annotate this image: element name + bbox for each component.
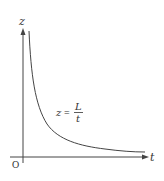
z-axis-label: z [18,15,25,28]
origin-label: O [12,159,19,170]
t-axis-arrow-icon [142,155,149,160]
t-axis-label: t [150,151,155,164]
z-axis-arrow-icon [21,28,26,35]
formula-lhs: z [55,107,62,118]
formula: z = L t [55,101,83,124]
hyperbola-curve [29,31,145,152]
formula-equals: = [64,107,70,118]
hyperbola-diagram: z t O z = L t [0,0,164,181]
formula-denominator: t [76,113,81,124]
formula-numerator: L [74,101,82,112]
